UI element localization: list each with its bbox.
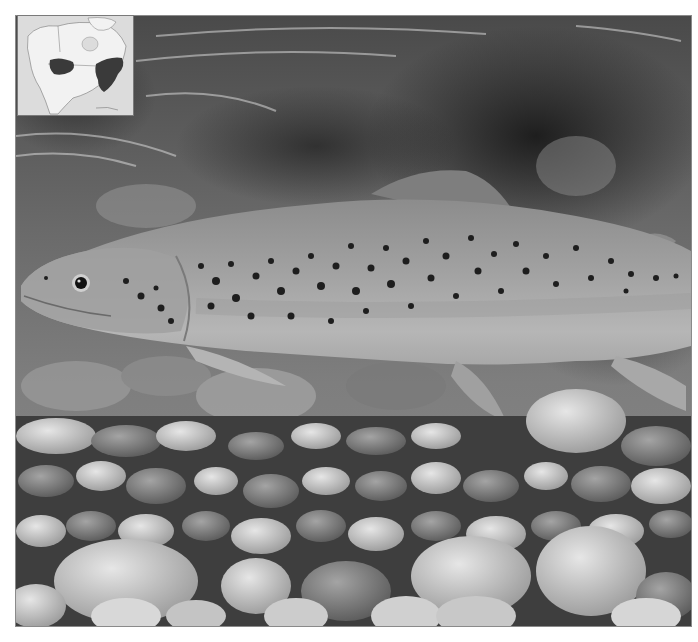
gravel — [16, 389, 691, 626]
north-america-range-map — [18, 16, 133, 115]
range-map-inset — [17, 15, 134, 116]
